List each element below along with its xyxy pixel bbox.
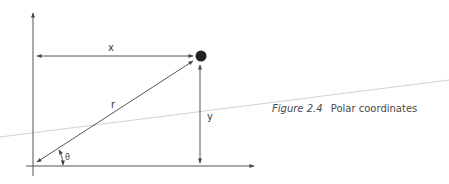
theta-angle-arc [59,150,63,165]
theta-label: θ [65,153,70,162]
y-label: y [207,111,213,122]
polar-coordinates-diagram: x y r θ Figure 2.4 Polar coordinates [0,0,449,184]
r-label: r [111,99,116,110]
figure-number: Figure 2.4 [272,103,323,114]
figure-title: Polar coordinates [331,103,418,114]
point-marker [196,51,207,62]
r-radius-arrow [37,61,193,162]
figure-caption: Figure 2.4 Polar coordinates [272,103,417,114]
x-label: x [108,42,114,53]
